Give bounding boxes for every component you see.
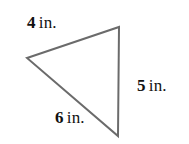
side-length-unit-right: in. xyxy=(149,76,167,95)
side-length-label-right: 5in. xyxy=(137,76,167,95)
side-length-unit-bottom: in. xyxy=(67,108,85,127)
side-length-unit-top: in. xyxy=(39,13,57,32)
geometry-figure: 4in. 5in. 6in. xyxy=(0,0,189,144)
side-length-value-right: 5 xyxy=(137,76,146,95)
side-length-value-top: 4 xyxy=(27,13,36,32)
side-length-label-top: 4in. xyxy=(27,13,57,32)
side-length-value-bottom: 6 xyxy=(55,108,64,127)
side-length-label-bottom: 6in. xyxy=(55,108,85,127)
